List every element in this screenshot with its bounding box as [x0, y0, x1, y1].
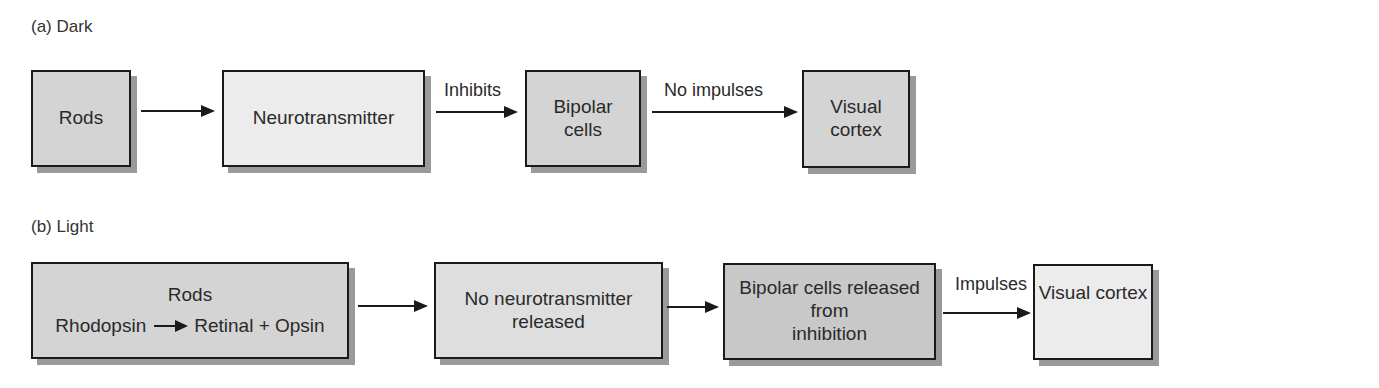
light-bipolar-released-box: Bipolar cells released from inhibition	[723, 263, 936, 360]
light-arrow-to-bipolar	[667, 306, 717, 308]
light-visual-cortex-box: Visual cortex	[1033, 264, 1153, 360]
rhodopsin-text: Rhodopsin	[55, 315, 146, 336]
light-visual-cortex-text: Visual cortex	[1039, 282, 1147, 305]
light-rods-box: Rods RhodopsinRetinal + Opsin	[31, 262, 349, 359]
dark-rods-text: Rods	[59, 107, 103, 130]
impulses-label: Impulses	[955, 274, 1027, 295]
light-rods-title: Rods	[168, 284, 212, 307]
dark-bipolar-line1: Bipolar	[553, 96, 612, 119]
dark-visual-cortex-box: Visual cortex	[802, 70, 910, 168]
no-impulses-label: No impulses	[664, 80, 763, 101]
dark-bipolar-line2: cells	[564, 119, 602, 142]
dark-arrow-inhibits	[436, 111, 516, 113]
reaction-arrow-icon	[154, 325, 186, 327]
retinal-opsin-text: Retinal + Opsin	[194, 315, 324, 336]
panel-a-label: (a) Dark	[31, 17, 92, 37]
light-arrow-rods-to-no-neurotransmitter	[358, 305, 426, 307]
bipolar-released-line2: inhibition	[792, 323, 867, 346]
bipolar-released-line1: Bipolar cells released from	[725, 277, 934, 323]
rhodopsin-reaction: RhodopsinRetinal + Opsin	[55, 315, 324, 338]
dark-visual-cortex-line1: Visual	[830, 96, 881, 119]
light-no-neurotransmitter-box: No neurotransmitter released	[434, 262, 663, 359]
light-arrow-impulses	[943, 312, 1029, 314]
dark-arrow-no-impulses	[652, 111, 796, 113]
dark-arrow-rods-to-neurotransmitter	[141, 110, 213, 112]
no-neurotransmitter-line2: released	[512, 311, 585, 334]
panel-b-label: (b) Light	[31, 217, 93, 237]
dark-rods-box: Rods	[31, 70, 131, 167]
no-neurotransmitter-line1: No neurotransmitter	[465, 288, 633, 311]
dark-neurotransmitter-text: Neurotransmitter	[253, 107, 395, 130]
dark-visual-cortex-line2: cortex	[830, 119, 882, 142]
dark-bipolar-box: Bipolar cells	[525, 70, 641, 167]
dark-neurotransmitter-box: Neurotransmitter	[222, 70, 425, 167]
inhibits-label: Inhibits	[444, 80, 501, 101]
